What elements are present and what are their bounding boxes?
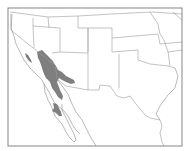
map-canvas xyxy=(0,0,189,151)
range-map xyxy=(0,0,189,151)
